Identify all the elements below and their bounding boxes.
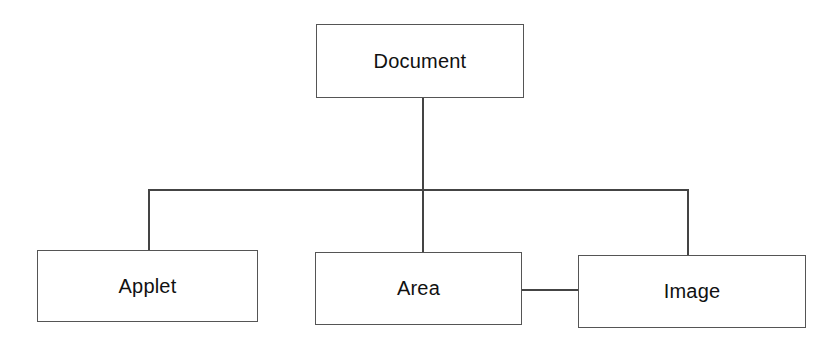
node-area-label: Area: [397, 277, 440, 300]
area-image-connector: [521, 289, 578, 291]
node-image-label: Image: [664, 280, 721, 303]
node-applet-label: Applet: [119, 275, 177, 298]
bus-connector: [148, 189, 688, 191]
node-applet: Applet: [37, 250, 258, 322]
node-document: Document: [316, 24, 524, 98]
applet-drop-connector: [148, 189, 150, 250]
node-area: Area: [315, 252, 522, 325]
class-hierarchy-diagram: Document Applet Area Image: [0, 0, 832, 346]
trunk-connector: [422, 97, 424, 253]
node-image: Image: [578, 255, 806, 328]
image-drop-connector: [687, 189, 689, 255]
node-document-label: Document: [374, 50, 467, 73]
